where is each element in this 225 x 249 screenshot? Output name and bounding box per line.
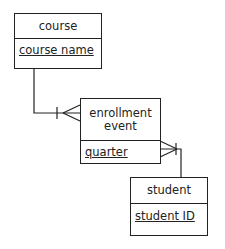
key-attribute: quarter <box>81 141 160 159</box>
entity-name: course <box>39 20 77 33</box>
entity-student[interactable]: student student ID <box>130 177 208 236</box>
entity-name: student <box>147 184 191 197</box>
entity-title: course <box>15 14 101 39</box>
entity-course[interactable]: course course name <box>14 13 102 69</box>
entity-name-line-1: enrollment <box>89 107 151 120</box>
key-attribute: course name <box>15 39 101 57</box>
entity-title: student <box>131 178 207 204</box>
entity-name-line-2: event <box>104 120 137 133</box>
entity-title: enrollment event <box>81 99 160 141</box>
key-attribute: student ID <box>131 204 207 223</box>
entity-enrollment-event[interactable]: enrollment event quarter <box>80 98 161 164</box>
connector-student-enrollment <box>160 141 181 177</box>
connector-course-enrollment <box>34 68 80 121</box>
